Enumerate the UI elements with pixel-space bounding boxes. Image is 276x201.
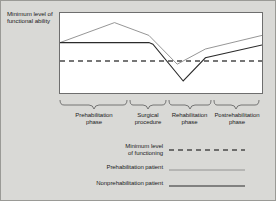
legend-swatch-thin-solid: [169, 167, 245, 175]
phase-label-line1: Surgical: [128, 112, 168, 119]
legend-item-minimum-level: Minimum level of functioning: [9, 144, 269, 160]
legend-label-nonprehabilitation-patient: Nonprehabilitation patient: [13, 180, 163, 187]
phase-band: Prehabilitation phase Surgical procedure…: [59, 98, 263, 136]
brace-postrehabilitation: [214, 100, 259, 109]
legend-label-minimum-level: Minimum level of functioning: [13, 143, 163, 157]
legend-swatch-solid: [169, 183, 245, 191]
phase-label-rehabilitation: Rehabilitation phase: [167, 112, 212, 126]
phase-label-line2: phase: [211, 119, 263, 126]
phase-label-surgical: Surgical procedure: [128, 112, 168, 126]
legend-swatch-dashed: [169, 147, 245, 155]
legend-item-nonprehabilitation-patient: Nonprehabilitation patient: [9, 180, 269, 196]
legend: Minimum level of functioning Prehabilita…: [9, 144, 269, 196]
plot-svg: [60, 13, 262, 93]
brace-prehabilitation: [60, 100, 127, 109]
y-axis-label: Minimum level of functional ability: [7, 10, 55, 25]
figure-container: Minimum level of functional ability Preh…: [0, 0, 276, 201]
brace-surgical: [130, 100, 166, 109]
phase-label-postrehabilitation: Postrehabilitation phase: [211, 112, 263, 126]
plot-area: [59, 12, 263, 94]
phase-label-line2: procedure: [128, 119, 168, 126]
phase-label-line2: phase: [59, 119, 129, 126]
phase-label-line2: phase: [167, 119, 212, 126]
legend-label-line2: of functioning: [13, 150, 163, 157]
legend-label-prehabilitation-patient: Prehabilitation patient: [13, 164, 163, 171]
legend-label-line1: Minimum level: [13, 143, 163, 150]
prehabilitation-patient-line: [60, 23, 262, 65]
phase-label-line1: Postrehabilitation: [211, 112, 263, 119]
phase-label-line1: Prehabilitation: [59, 112, 129, 119]
phase-label-prehabilitation: Prehabilitation phase: [59, 112, 129, 126]
phase-braces: [59, 98, 263, 112]
phase-label-line1: Rehabilitation: [167, 112, 212, 119]
nonprehabilitation-patient-line: [60, 43, 262, 81]
legend-item-prehabilitation-patient: Prehabilitation patient: [9, 164, 269, 180]
brace-rehabilitation: [169, 100, 211, 109]
